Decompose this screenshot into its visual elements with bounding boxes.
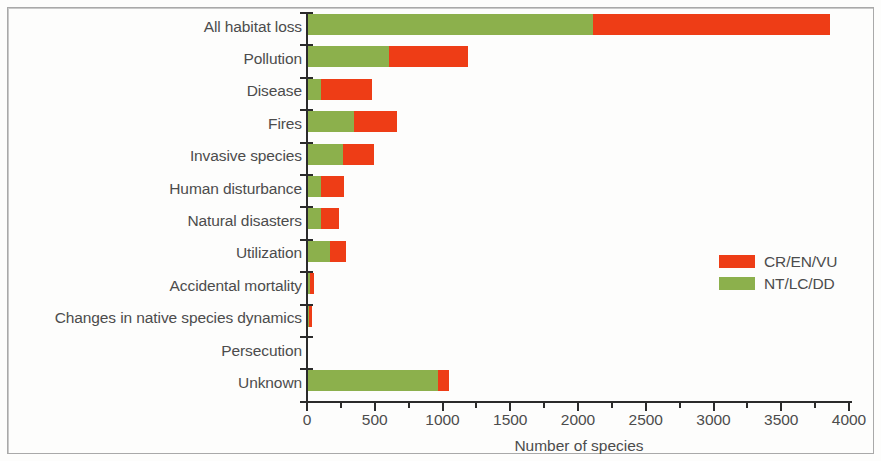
x-axis-line [306,401,852,403]
x-axis-tick-label: 1000 [425,411,459,429]
x-axis-tick-major [713,403,715,411]
category-label: Invasive species [10,147,302,165]
x-axis-tick-major [645,403,647,411]
bar-segment-nt-lc-dd [308,14,593,35]
bar-segment-cr-en-vu [354,111,397,132]
category-label: Pollution [10,50,302,68]
bar-row [308,306,312,327]
x-axis-tick-major [509,403,511,411]
bar-row [308,79,372,100]
x-axis-tick-major [780,403,782,411]
bar-row [308,144,374,165]
chart-page: All habitat lossPollutionDiseaseFiresInv… [0,0,881,461]
x-axis-tick-label: 4000 [832,411,866,429]
category-label: Changes in native species dynamics [10,309,302,327]
bar-segment-cr-en-vu [321,208,339,229]
x-axis-tick-minor [746,403,748,408]
x-axis-tick-minor [543,403,545,408]
x-axis-title: Number of species [514,437,643,455]
category-label: All habitat loss [10,18,302,36]
bar-row [308,273,314,294]
x-axis-tick-minor [814,403,816,408]
x-axis-tick-label: 2500 [629,411,663,429]
x-axis-tick-major [577,403,579,411]
x-axis-tick-minor [340,403,342,408]
bar-segment-nt-lc-dd [308,241,330,262]
category-label: Unknown [10,374,302,392]
x-axis-tick-minor [611,403,613,408]
bar-row [308,208,339,229]
legend-item: CR/EN/VU [719,252,837,271]
x-axis-tick-minor [679,403,681,408]
bar-segment-cr-en-vu [310,273,314,294]
category-label: Persecution [10,342,302,360]
bar-segment-nt-lc-dd [308,111,354,132]
bar-segment-nt-lc-dd [308,176,321,197]
category-label: Fires [10,115,302,133]
x-axis-tick-major [306,403,308,411]
bar-row [308,111,397,132]
legend-label: NT/LC/DD [764,275,835,293]
category-label: Utilization [10,244,302,262]
bar-segment-cr-en-vu [321,79,372,100]
bar-segment-cr-en-vu [389,46,468,67]
category-label: Natural disasters [10,212,302,230]
legend-swatch [719,277,755,290]
x-axis-tick-minor [475,403,477,408]
bar-segment-nt-lc-dd [308,79,321,100]
legend-item: NT/LC/DD [719,274,837,293]
bar-row [308,370,449,391]
bar-segment-cr-en-vu [330,241,346,262]
category-axis-labels: All habitat lossPollutionDiseaseFiresInv… [10,16,302,396]
legend-swatch [719,255,755,268]
bar-segment-nt-lc-dd [308,46,389,67]
x-axis-tick-label: 3000 [696,411,730,429]
bar-segment-nt-lc-dd [308,208,321,229]
bar-segment-nt-lc-dd [308,370,438,391]
bar-row [308,241,346,262]
x-axis-tick-label: 3500 [764,411,798,429]
legend-label: CR/EN/VU [764,253,837,271]
bar-segment-cr-en-vu [309,306,312,327]
bar-row [308,176,344,197]
x-axis-tick-major [848,403,850,411]
bar-segment-cr-en-vu [321,176,344,197]
chart-legend: CR/EN/VUNT/LC/DD [719,252,837,296]
bar-segment-cr-en-vu [438,370,449,391]
x-axis-tick-label: 0 [303,411,312,429]
x-axis-tick-major [442,403,444,411]
category-label: Accidental mortality [10,277,302,295]
x-axis-tick-label: 500 [362,411,388,429]
x-axis-tick-major [374,403,376,411]
bar-chart-plot: All habitat lossPollutionDiseaseFiresInv… [0,0,881,461]
category-label: Human disturbance [10,180,302,198]
x-axis-tick-label: 2000 [561,411,595,429]
bar-row [308,14,830,35]
bar-segment-nt-lc-dd [308,144,343,165]
bar-segment-cr-en-vu [593,14,830,35]
bar-segment-cr-en-vu [343,144,374,165]
x-axis-tick-minor [408,403,410,408]
x-axis-tick-label: 1500 [493,411,527,429]
bar-series-container [308,14,868,403]
category-label: Disease [10,82,302,100]
bar-row [308,46,468,67]
